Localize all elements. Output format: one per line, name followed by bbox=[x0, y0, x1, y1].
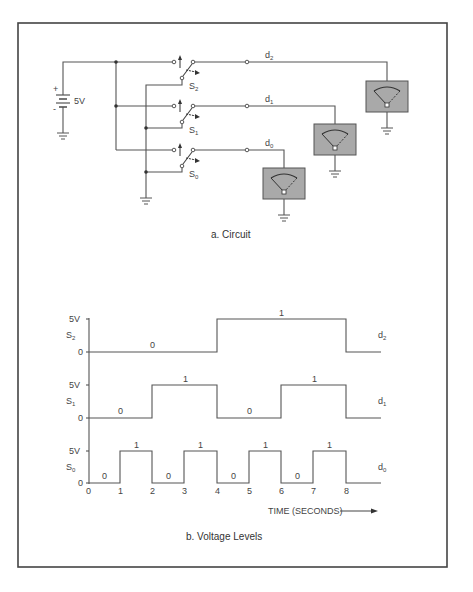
svg-text:1: 1 bbox=[118, 486, 123, 496]
ground-icon bbox=[329, 171, 341, 177]
switch-s0-label: S0 bbox=[189, 169, 199, 180]
voltmeter-d0-icon bbox=[263, 168, 305, 199]
s2-bit-label: 0 bbox=[150, 340, 155, 350]
s2-track-label: S2 bbox=[66, 330, 76, 341]
time-axis-label: TIME (SECONDS) bbox=[268, 506, 343, 516]
s0-bit-label: 1 bbox=[327, 440, 332, 450]
svg-text:3: 3 bbox=[182, 486, 187, 496]
time-axis-ticks: 0 1 2 3 4 5 6 7 8 bbox=[86, 486, 349, 496]
battery-voltage-label: 5V bbox=[74, 96, 85, 106]
d1-label: d1 bbox=[378, 396, 387, 407]
output-d2-label: d2 bbox=[265, 50, 274, 61]
s2-waveform bbox=[89, 319, 381, 352]
svg-text:0: 0 bbox=[86, 486, 91, 496]
s0-bit-label: 1 bbox=[263, 440, 268, 450]
svg-text:8: 8 bbox=[344, 486, 349, 496]
battery-minus-label: - bbox=[53, 104, 56, 114]
s0-bit-label: 1 bbox=[198, 440, 203, 450]
voltmeter-d2-icon bbox=[366, 81, 408, 112]
s1-bit-label: 1 bbox=[312, 374, 317, 384]
s2-high-tick-label: 5V bbox=[69, 314, 80, 324]
ground-icon bbox=[381, 128, 393, 134]
s1-bit-label: 0 bbox=[247, 406, 252, 416]
svg-text:7: 7 bbox=[311, 486, 316, 496]
switch-s2 bbox=[172, 55, 245, 80]
s1-bit-label: 0 bbox=[118, 406, 123, 416]
timing-caption: b. Voltage Levels bbox=[186, 531, 262, 542]
terminal-d0 bbox=[245, 148, 249, 152]
s0-bit-label: 0 bbox=[166, 471, 171, 481]
s2-bit-label: 1 bbox=[279, 308, 284, 318]
ground-bus bbox=[146, 80, 182, 198]
svg-text:5: 5 bbox=[247, 486, 252, 496]
switch-s1-label: S1 bbox=[189, 125, 199, 136]
circuit-diagram: + - 5V bbox=[53, 50, 408, 240]
switch-s0 bbox=[172, 143, 245, 168]
s0-bit-label: 1 bbox=[134, 440, 139, 450]
s0-track-label: S0 bbox=[66, 462, 76, 473]
ground-icon bbox=[278, 215, 290, 221]
s0-bit-label: 0 bbox=[102, 471, 107, 481]
s0-low-tick-label: 0 bbox=[78, 478, 83, 488]
s2-low-tick-label: 0 bbox=[78, 347, 83, 357]
timing-chart: 5V 0 S2 0 1 d2 5V 0 S1 0 1 0 1 d1 5V 0 S… bbox=[66, 308, 387, 542]
switch-s2-label: S2 bbox=[189, 81, 199, 92]
svg-text:6: 6 bbox=[279, 486, 284, 496]
s1-low-tick-label: 0 bbox=[78, 413, 83, 423]
terminal-d2 bbox=[245, 60, 249, 64]
terminal-d1 bbox=[245, 104, 249, 108]
battery-icon bbox=[56, 62, 116, 133]
s1-bit-label: 1 bbox=[183, 374, 188, 384]
output-d1-label: d1 bbox=[265, 94, 274, 105]
voltmeter-d1-icon bbox=[314, 124, 356, 155]
s1-track-label: S1 bbox=[66, 396, 76, 407]
switch-s1 bbox=[172, 99, 245, 124]
s1-waveform bbox=[89, 385, 381, 418]
s1-high-tick-label: 5V bbox=[69, 380, 80, 390]
figure-canvas: + - 5V bbox=[0, 0, 473, 592]
d0-label: d0 bbox=[378, 462, 387, 473]
ground-icon bbox=[140, 198, 152, 204]
circuit-caption: a. Circuit bbox=[211, 229, 251, 240]
d2-label: d2 bbox=[378, 330, 387, 341]
s0-high-tick-label: 5V bbox=[69, 446, 80, 456]
s0-bit-label: 0 bbox=[231, 471, 236, 481]
svg-text:4: 4 bbox=[215, 486, 220, 496]
ground-icon bbox=[57, 133, 69, 139]
s0-bit-label: 0 bbox=[295, 471, 300, 481]
battery-plus-label: + bbox=[53, 84, 58, 94]
output-d0-label: d0 bbox=[265, 138, 274, 149]
svg-text:2: 2 bbox=[150, 486, 155, 496]
